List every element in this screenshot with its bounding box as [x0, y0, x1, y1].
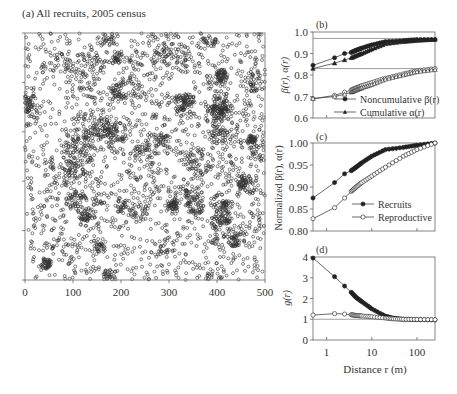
- panel-d-title: (d): [316, 244, 328, 256]
- x-tick-label: 300: [161, 286, 178, 298]
- panel-b-chart: (b) 0.60.70.80.91.0Noncumulative β(r)Cum…: [279, 19, 439, 124]
- y-tick-label: 1.0: [294, 26, 308, 38]
- panel-c-y-label: Normalized β(r), α(r): [273, 145, 285, 230]
- panel-b-title: (b): [316, 19, 328, 31]
- panel-a-scatter: (a) All recruits, 2005 census 0100200300…: [22, 7, 274, 298]
- y-tick-label: 1.00: [289, 137, 309, 149]
- x-tick-label: 200: [113, 286, 130, 298]
- y-tick-label: 4: [303, 251, 309, 263]
- y-tick-label: 0.80: [289, 225, 309, 237]
- x-tick-label: 100: [65, 286, 82, 298]
- panel-a-title: (a) All recruits, 2005 census: [22, 7, 146, 20]
- x-tick-label: 400: [209, 286, 226, 298]
- panel-c-title: (c): [316, 131, 327, 143]
- y-tick-label: 0.85: [289, 203, 309, 215]
- figure: (a) All recruits, 2005 census 0100200300…: [0, 0, 457, 394]
- y-tick-label: 0.90: [289, 181, 309, 193]
- y-tick-label: 0.6: [294, 112, 308, 124]
- panel-d-x-label: Distance r (m): [343, 363, 407, 376]
- y-tick-label: 0.8: [294, 69, 308, 81]
- x-tick-label: 1: [324, 346, 330, 358]
- x-tick-label: 10: [366, 346, 378, 358]
- legend-label: Noncumulative β(r): [360, 94, 439, 106]
- y-tick-label: 2: [303, 293, 309, 305]
- x-tick-label: 100: [409, 346, 426, 358]
- panel-b-y-label: β(r), α(r): [279, 56, 291, 94]
- x-tick-label: 500: [257, 286, 274, 298]
- panel-d-chart: (d) 01234110100 g(r) Distance r (m): [281, 244, 437, 376]
- scatter-points: [24, 32, 267, 282]
- panel-a-y-axis: [22, 33, 25, 280]
- y-tick-label: 0.95: [289, 159, 309, 171]
- x-tick-label: 0: [22, 286, 28, 298]
- y-tick-label: 0: [303, 334, 309, 346]
- legend-label: Recruits: [378, 199, 411, 210]
- panel-c-chart: (c) 0.800.850.900.951.00RecruitsReproduc…: [273, 131, 437, 237]
- y-tick-label: 3: [303, 272, 309, 284]
- legend-label: Cumulative α(r): [360, 107, 424, 119]
- y-tick-label: 0.9: [294, 48, 308, 60]
- y-tick-label: 1: [303, 313, 309, 325]
- panel-d-y-label: g(r): [281, 290, 293, 306]
- panel-a-x-axis: 0100200300400500: [22, 280, 274, 298]
- y-tick-label: 0.7: [294, 91, 308, 103]
- legend-label: Reproductive: [378, 212, 432, 223]
- panel-d-frame: [313, 257, 435, 340]
